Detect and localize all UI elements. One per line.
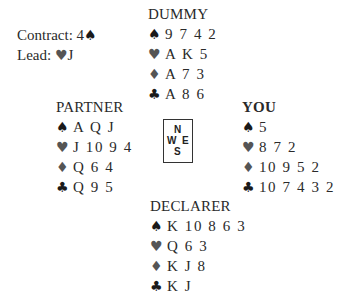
heart-icon: ♥ <box>148 44 165 64</box>
spade-icon: ♠ <box>242 117 259 137</box>
cards: 8 7 2 <box>259 139 297 155</box>
cards: K 10 8 6 3 <box>167 218 246 234</box>
contract-info: Contract: 4♠ Lead: ♥J <box>17 25 97 65</box>
cards: K J 8 <box>167 258 207 274</box>
diamond-icon: ♦ <box>56 157 73 177</box>
heart-icon: ♥ <box>150 236 167 256</box>
cards: Q 6 4 <box>73 159 114 175</box>
cards: K J <box>167 278 192 294</box>
hand-title: PARTNER <box>56 97 133 117</box>
suit-row-clubs: ♣A 8 6 <box>148 84 217 104</box>
hand-title: DUMMY <box>148 4 217 24</box>
suit-row-spades: ♠A Q J <box>56 117 133 137</box>
cards: A Q J <box>73 119 115 135</box>
contract-line: Contract: 4♠ <box>17 25 97 45</box>
diamond-icon: ♦ <box>150 256 167 276</box>
hand-partner: PARTNER ♠A Q J ♥J 10 9 4 ♦Q 6 4 ♣Q 9 5 <box>56 97 133 197</box>
suit-row-hearts: ♥J 10 9 4 <box>56 137 133 157</box>
suit-row-clubs: ♣Q 9 5 <box>56 177 133 197</box>
heart-icon: ♥ <box>242 137 259 157</box>
hand-you: YOU ♠5 ♥8 7 2 ♦10 9 5 2 ♣10 7 4 3 2 <box>242 97 335 197</box>
lead-line: Lead: ♥J <box>17 45 97 65</box>
cards: 10 7 4 3 2 <box>259 179 335 195</box>
spade-icon: ♠ <box>84 25 97 45</box>
cards: 9 7 4 2 <box>165 26 217 42</box>
cards: A 8 6 <box>165 86 206 102</box>
suit-row-spades: ♠9 7 4 2 <box>148 24 217 44</box>
cards: A 7 3 <box>165 66 206 82</box>
club-icon: ♣ <box>242 177 259 197</box>
compass-east: E <box>182 136 189 146</box>
lead-card: J <box>67 47 73 63</box>
cards: Q 9 5 <box>73 179 114 195</box>
contract-label: Contract: 4 <box>17 27 84 43</box>
spade-icon: ♠ <box>150 216 167 236</box>
suit-row-diamonds: ♦Q 6 4 <box>56 157 133 177</box>
cards: J 10 9 4 <box>73 139 133 155</box>
club-icon: ♣ <box>56 177 73 197</box>
cards: 5 <box>259 119 268 135</box>
compass-south: S <box>174 147 181 157</box>
suit-row-clubs: ♣10 7 4 3 2 <box>242 177 335 197</box>
compass-box: N W E S <box>163 119 193 163</box>
hand-title: YOU <box>242 97 335 117</box>
hand-dummy: DUMMY ♠9 7 4 2 ♥A K 5 ♦A 7 3 ♣A 8 6 <box>148 4 217 104</box>
compass-north: N <box>174 125 181 135</box>
heart-icon: ♥ <box>56 137 73 157</box>
club-icon: ♣ <box>148 84 165 104</box>
suit-row-hearts: ♥8 7 2 <box>242 137 335 157</box>
suit-row-diamonds: ♦K J 8 <box>150 256 246 276</box>
cards: 10 9 5 2 <box>259 159 321 175</box>
suit-row-clubs: ♣K J <box>150 276 246 296</box>
suit-row-spades: ♠5 <box>242 117 335 137</box>
spade-icon: ♠ <box>148 24 165 44</box>
heart-icon: ♥ <box>55 45 68 65</box>
compass-west: W <box>167 136 176 146</box>
suit-row-diamonds: ♦10 9 5 2 <box>242 157 335 177</box>
suit-row-spades: ♠K 10 8 6 3 <box>150 216 246 236</box>
cards: A K 5 <box>165 46 209 62</box>
hand-declarer: DECLARER ♠K 10 8 6 3 ♥Q 6 3 ♦K J 8 ♣K J <box>150 196 246 296</box>
diamond-icon: ♦ <box>242 157 259 177</box>
hand-title: DECLARER <box>150 196 246 216</box>
suit-row-hearts: ♥Q 6 3 <box>150 236 246 256</box>
lead-label: Lead: <box>17 47 55 63</box>
diamond-icon: ♦ <box>148 64 165 84</box>
club-icon: ♣ <box>150 276 167 296</box>
cards: Q 6 3 <box>167 238 208 254</box>
suit-row-hearts: ♥A K 5 <box>148 44 217 64</box>
suit-row-diamonds: ♦A 7 3 <box>148 64 217 84</box>
spade-icon: ♠ <box>56 117 73 137</box>
